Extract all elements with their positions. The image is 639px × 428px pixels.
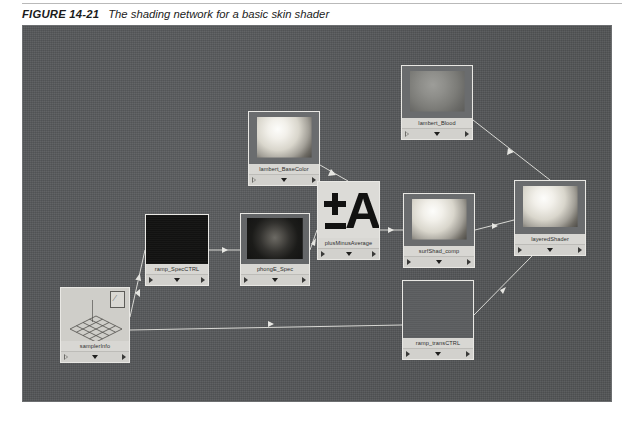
node-lambert-blood[interactable]: lambert_Blood — [401, 65, 473, 140]
sampler-mini-box-icon: ⁄ — [110, 291, 125, 308]
triangle-down-icon[interactable] — [272, 278, 278, 282]
node-swatch-ramp-specctrl — [146, 215, 208, 264]
node-swatch-phonge-spec — [241, 214, 309, 264]
node-footer-surfshad-comp[interactable] — [404, 256, 474, 267]
triangle-down-icon[interactable] — [346, 252, 352, 256]
triangle-right-icon[interactable] — [149, 277, 153, 283]
node-swatch-lambert-blood — [402, 66, 472, 118]
arrowhead-rampspecctrl-phongespec — [222, 247, 228, 253]
node-surfshad-comp[interactable]: surfShad_comp — [403, 193, 475, 268]
sphere-preview-icon — [402, 66, 472, 118]
triangle-left-outline-icon[interactable] — [64, 354, 68, 360]
node-phonge-spec[interactable]: phongE_Spec — [240, 213, 310, 286]
node-label-ramp-transctrl: ramp_transCTRL — [403, 338, 473, 348]
grid-plane-icon — [69, 314, 123, 341]
caption-rule — [22, 3, 622, 4]
node-sampler-info[interactable]: ⁄ samplerInfo — [60, 287, 130, 363]
triangle-right-icon[interactable] — [407, 259, 411, 265]
figure-number: FIGURE 14-21 — [22, 8, 99, 20]
node-footer-phonge-spec[interactable] — [241, 274, 309, 285]
node-ramp-transctrl[interactable]: ramp_transCTRL — [402, 280, 474, 360]
node-label-lambert-basecolor: lambert_BaseColor — [249, 164, 319, 174]
node-footer-plusminusaverage[interactable] — [318, 248, 379, 259]
triangle-down-icon[interactable] — [174, 278, 180, 282]
node-footer-ramp-specctrl[interactable] — [146, 274, 208, 285]
figure-caption: FIGURE 14-21The shading network for a ba… — [22, 8, 329, 20]
triangle-down-icon[interactable] — [436, 260, 442, 264]
triangle-right-icon[interactable] — [372, 251, 376, 257]
ramp-swatch-icon — [146, 215, 208, 264]
arrowhead-plusminusaverage-surfshadcomp — [388, 227, 394, 233]
hypershade-work-area[interactable]: lambert_BaseColor lambert_Blood A — [22, 25, 612, 402]
triangle-right-icon[interactable] — [578, 247, 582, 253]
node-footer-lambert-basecolor[interactable] — [249, 174, 319, 185]
node-label-sampler-info: samplerInfo — [61, 341, 129, 351]
arrowhead-samplerinfo-ramptransctrl — [268, 321, 274, 327]
node-label-surfshad-comp: surfShad_comp — [404, 246, 474, 256]
node-footer-layered-shader[interactable] — [515, 244, 585, 255]
node-swatch-sampler-info: ⁄ — [61, 288, 129, 341]
wire-lambertblood-layeredshader — [473, 120, 550, 180]
triangle-left-outline-icon[interactable] — [405, 131, 409, 137]
node-ramp-specctrl[interactable]: ramp_SpecCTRL — [145, 214, 209, 286]
node-plusminusaverage[interactable]: A plusMinusAverage — [317, 181, 380, 260]
triangle-right-icon[interactable] — [406, 351, 410, 357]
wire-samplerinfo-ramptransctrl — [130, 325, 402, 330]
sphere-preview-icon — [249, 112, 319, 164]
node-swatch-layered-shader — [515, 181, 585, 234]
node-label-phonge-spec: phongE_Spec — [241, 264, 309, 274]
node-lambert-basecolor[interactable]: lambert_BaseColor — [248, 111, 320, 186]
plus-vertical-bar-icon — [332, 193, 338, 215]
node-layered-shader[interactable]: layeredShader — [514, 180, 586, 256]
triangle-right-icon[interactable] — [467, 259, 471, 265]
node-label-layered-shader: layeredShader — [515, 234, 585, 244]
triangle-right-icon[interactable] — [302, 277, 306, 283]
triangle-right-icon[interactable] — [466, 351, 470, 357]
letter-a-glyph: A — [345, 186, 379, 236]
sphere-preview-icon — [515, 181, 585, 234]
minus-bar-icon — [325, 223, 346, 229]
node-swatch-ramp-transctrl — [403, 281, 473, 338]
node-label-lambert-blood: lambert_Blood — [402, 118, 472, 128]
sphere-preview-icon — [404, 194, 474, 246]
node-footer-ramp-transctrl[interactable] — [403, 348, 473, 359]
node-swatch-plusminusaverage: A — [318, 182, 379, 238]
triangle-down-icon[interactable] — [434, 132, 440, 136]
triangle-right-icon[interactable] — [465, 131, 469, 137]
triangle-right-icon[interactable] — [122, 354, 126, 360]
node-label-ramp-specctrl: ramp_SpecCTRL — [146, 264, 208, 274]
wire-phongespec-plusminusaverage — [310, 230, 317, 250]
sphere-preview-icon — [241, 214, 309, 264]
node-footer-sampler-info[interactable] — [61, 351, 129, 362]
node-swatch-surfshad-comp — [404, 194, 474, 246]
ramp-swatch-icon — [403, 281, 473, 338]
wire-ramptransctrl-layeredshader — [474, 256, 532, 315]
triangle-right-icon[interactable] — [312, 177, 316, 183]
triangle-right-icon[interactable] — [321, 251, 325, 257]
triangle-right-icon[interactable] — [518, 247, 522, 253]
triangle-down-icon[interactable] — [547, 248, 553, 252]
node-footer-lambert-blood[interactable] — [402, 128, 472, 139]
node-label-plusminusaverage: plusMinusAverage — [318, 238, 379, 248]
sampler-info-icon: ⁄ — [61, 288, 129, 341]
sampler-mini-box-mark: ⁄ — [114, 293, 116, 303]
triangle-down-icon[interactable] — [435, 352, 441, 356]
triangle-left-outline-icon[interactable] — [252, 177, 256, 183]
node-swatch-lambert-basecolor — [249, 112, 319, 164]
plus-minus-average-icon: A — [318, 182, 379, 238]
triangle-down-icon[interactable] — [281, 178, 287, 182]
triangle-down-icon[interactable] — [92, 355, 98, 359]
triangle-right-icon[interactable] — [201, 277, 205, 283]
figure-caption-text: The shading network for a basic skin sha… — [108, 8, 329, 20]
wire-samplerinfo-rampspecctrl — [130, 250, 145, 317]
triangle-right-icon[interactable] — [244, 277, 248, 283]
